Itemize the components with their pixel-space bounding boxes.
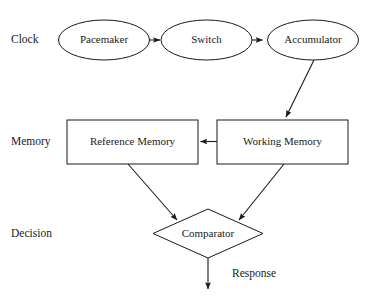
node-reference-memory[interactable]: Reference Memory xyxy=(67,120,198,164)
node-switch[interactable]: Switch xyxy=(161,20,252,60)
diagram-canvas: Clock Memory Decision Response Pacemaker… xyxy=(0,0,367,299)
node-pacemaker[interactable]: Pacemaker xyxy=(59,20,150,60)
node-comparator[interactable]: Comparator xyxy=(153,209,263,258)
node-accumulator[interactable]: Accumulator xyxy=(268,20,359,60)
row-label-decision: Decision xyxy=(11,227,52,239)
edge-reference-memory-comparator xyxy=(128,164,177,220)
flowchart-diagram: Clock Memory Decision Response Pacemaker… xyxy=(0,0,367,299)
node-pacemaker-label: Pacemaker xyxy=(80,33,129,45)
node-accumulator-label: Accumulator xyxy=(284,33,342,45)
node-switch-label: Switch xyxy=(191,33,222,45)
row-label-clock: Clock xyxy=(11,33,39,45)
node-comparator-label: Comparator xyxy=(182,227,235,239)
edge-label-response: Response xyxy=(232,267,276,280)
node-working-memory[interactable]: Working Memory xyxy=(217,120,348,164)
edge-accumulator-working-memory xyxy=(286,60,314,117)
node-working-memory-label: Working Memory xyxy=(243,135,322,147)
node-reference-memory-label: Reference Memory xyxy=(90,135,176,147)
edge-working-memory-comparator xyxy=(239,164,284,220)
row-label-memory: Memory xyxy=(11,135,51,148)
